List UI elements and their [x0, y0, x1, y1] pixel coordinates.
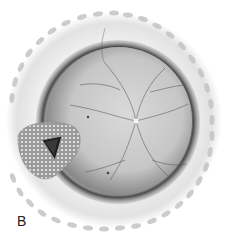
fundus-illustration [0, 0, 225, 237]
fundus [46, 47, 192, 195]
optic-disc [134, 119, 139, 124]
panel-label: B [17, 213, 26, 229]
